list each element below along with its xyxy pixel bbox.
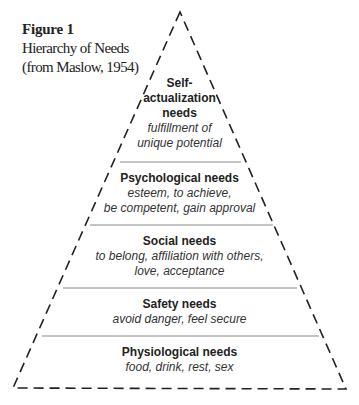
tier-title: actualization [0, 91, 359, 106]
tier-title: Psychological needs [0, 171, 359, 186]
tier-description: avoid danger, feel secure [0, 312, 359, 327]
tier-description: esteem, to achieve, [0, 186, 359, 201]
tier-physiological: Physiological needs food, drink, rest, s… [0, 345, 359, 375]
tier-description: food, drink, rest, sex [0, 360, 359, 375]
tier-description: love, acceptance [0, 264, 359, 279]
tier-self-actualization: Self- actualization needs fulfillment of… [0, 76, 359, 151]
tier-description: fulfillment of [0, 121, 359, 136]
tier-title: Safety needs [0, 297, 359, 312]
tier-title: Social needs [0, 234, 359, 249]
tier-title: needs [0, 106, 359, 121]
tier-social: Social needs to belong, affiliation with… [0, 234, 359, 279]
tier-description: be competent, gain approval [0, 201, 359, 216]
tier-safety: Safety needs avoid danger, feel secure [0, 297, 359, 327]
tier-description: unique potential [0, 136, 359, 151]
tier-title: Self- [0, 76, 359, 91]
tier-psychological: Psychological needs esteem, to achieve, … [0, 171, 359, 216]
tier-description: to belong, affiliation with others, [0, 249, 359, 264]
tier-title: Physiological needs [0, 345, 359, 360]
